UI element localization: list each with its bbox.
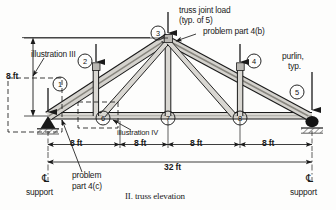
web-vertical-4-8 [237,66,242,116]
centerline-symbol-left: ℄ [42,172,49,185]
label-purlin-typ: typ. [288,62,301,72]
web-diagonal-8-3 [167,40,236,117]
truss-diagram-svg [0,0,336,210]
dimension-rise: 8 ft [6,72,18,82]
dimension-bay-3: 8 ft [190,139,202,149]
label-illustration-4: illustration IV [117,128,158,138]
figure-caption: II. truss elevation [125,192,185,202]
top-chord-right [162,34,310,119]
centerline-symbol-right: ℄ [306,172,313,185]
dimension-bay-4: 8 ft [262,139,274,149]
joint-label-4: 4 [249,57,259,66]
illustration-3-box [8,78,62,132]
dimension-bay-1: 8 ft [70,139,82,149]
web-vertical-2-6 [93,66,98,116]
joint-label-6: 6 [98,114,108,123]
support-label-left: support [26,188,53,198]
label-truss-joint-load-typ: (typ. of 5) [179,16,213,26]
truss-elevation-figure: truss joint load (typ. of 5) problem par… [0,0,336,210]
label-problem-part-4b: problem part 4(b) [203,27,265,37]
dimension-bay-2: 8 ft [134,139,146,149]
truss-members [46,34,312,119]
joint-label-8: 8 [235,114,245,123]
label-problem-part-4c-line1: problem [72,171,101,181]
joint-label-2: 2 [80,57,90,66]
label-problem-part-4c-line2: part 4(c) [72,182,102,192]
label-illustration-3: illustration III [31,50,76,60]
bottom-chord [48,113,312,119]
support-label-right: support [290,188,317,198]
joint-label-5: 5 [292,88,302,97]
dimension-span-total: 32 ft [164,163,181,173]
web-vertical-3-7 [165,38,171,116]
joint-label-7: 7 [163,114,173,123]
joint-markers [53,26,304,125]
joint-label-3: 3 [153,29,163,38]
joint-label-1: 1 [55,80,65,89]
